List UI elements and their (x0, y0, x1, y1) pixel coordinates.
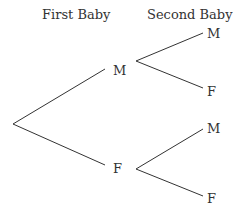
node-m-then-m: M (207, 27, 220, 40)
node-first-f: F (113, 162, 122, 175)
branch-root-to-f (13, 124, 105, 165)
node-first-m: M (113, 64, 126, 77)
node-m-then-f: F (207, 85, 216, 98)
branch-root-to-m (13, 69, 105, 124)
tree-diagram (0, 0, 233, 216)
branch-m-to-f (136, 61, 203, 88)
branch-m-to-m (136, 33, 203, 61)
branch-f-to-m (136, 129, 203, 169)
node-f-then-f: F (207, 192, 216, 205)
branch-f-to-f (136, 169, 203, 196)
node-f-then-m: M (207, 122, 220, 135)
